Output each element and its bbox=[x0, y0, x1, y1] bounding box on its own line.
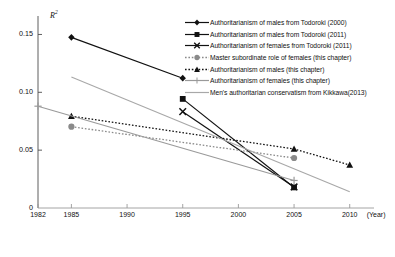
legend-marker-x-icon bbox=[184, 40, 210, 51]
x-axis-unit-label: (Year) bbox=[367, 211, 386, 218]
legend-item[interactable]: Authoritarianism of females from Todorok… bbox=[184, 40, 392, 52]
series-point bbox=[68, 34, 74, 41]
series-point bbox=[34, 103, 41, 110]
series-point bbox=[291, 155, 297, 161]
x-tick-label: 1995 bbox=[168, 211, 198, 218]
x-tick-label: 2005 bbox=[279, 211, 309, 218]
y-tick-label: 0.10 bbox=[11, 87, 33, 96]
x-tick-label: 1985 bbox=[56, 211, 86, 218]
legend-marker-square-icon bbox=[184, 29, 210, 40]
y-tick-label: 0.05 bbox=[11, 145, 33, 154]
series-line bbox=[71, 37, 182, 78]
series-line bbox=[71, 116, 349, 165]
series-point bbox=[291, 146, 298, 152]
chart-figure: R2 00.050.100.15 19821985199019952000200… bbox=[0, 0, 395, 257]
series-point bbox=[346, 162, 353, 168]
legend-marker-circle-icon bbox=[184, 52, 210, 63]
legend-item[interactable]: Authoritarianism of males (this chapter) bbox=[184, 63, 392, 75]
legend-item-label: Master subordinate role of females (this… bbox=[210, 52, 351, 63]
series-point bbox=[68, 124, 74, 130]
legend-marker-diamond-icon bbox=[184, 17, 210, 28]
legend-item-label: Authoritarianism of females (this chapte… bbox=[210, 75, 330, 86]
legend-item-label: Men's authoritarian conservatism from Ki… bbox=[210, 87, 367, 98]
legend-item[interactable]: Men's authoritarian conservatism from Ki… bbox=[184, 87, 392, 99]
y-axis-title: R2 bbox=[50, 9, 58, 20]
x-tick-label: 2000 bbox=[223, 211, 253, 218]
y-axis-title-exponent: 2 bbox=[55, 9, 58, 15]
legend-item[interactable]: Master subordinate role of females (this… bbox=[184, 52, 392, 64]
series-line bbox=[38, 106, 294, 180]
series-point bbox=[290, 177, 297, 184]
x-tick-label: 1982 bbox=[23, 211, 53, 218]
x-tick-label: 1990 bbox=[112, 211, 142, 218]
series-line bbox=[183, 99, 294, 188]
legend-item-label: Authoritarianism of males (this chapter) bbox=[210, 64, 324, 75]
x-tick-label: 2010 bbox=[335, 211, 365, 218]
legend-item-label: Authoritarianism of females from Todorok… bbox=[210, 40, 352, 51]
legend-item[interactable]: Authoritarianism of males from Todoroki … bbox=[184, 17, 392, 29]
chart-legend: Authoritarianism of males from Todoroki … bbox=[184, 17, 392, 98]
series-line bbox=[71, 127, 294, 158]
legend-item-label: Authoritarianism of males from Todoroki … bbox=[210, 29, 346, 40]
y-tick-label: 0.15 bbox=[11, 29, 33, 38]
series-point bbox=[179, 108, 186, 115]
legend-marker-none-icon bbox=[184, 87, 210, 98]
legend-marker-triangle-icon bbox=[184, 64, 210, 75]
legend-item[interactable]: Authoritarianism of females (this chapte… bbox=[184, 75, 392, 87]
legend-item-label: Authoritarianism of males from Todoroki … bbox=[210, 17, 347, 28]
legend-item[interactable]: Authoritarianism of males from Todoroki … bbox=[184, 29, 392, 41]
legend-marker-plus-icon bbox=[184, 75, 210, 86]
